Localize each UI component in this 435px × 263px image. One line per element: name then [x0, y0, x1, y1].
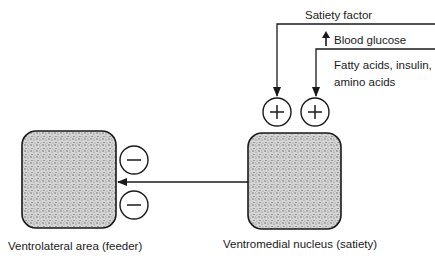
satiety-factor-label: Satiety factor [305, 8, 372, 22]
ventromedial-nucleus-label: Ventromedial nucleus (satiety) [223, 237, 377, 251]
fatty-acids-label-line2: amino acids [334, 75, 395, 89]
minus-sign-top-icon [120, 146, 148, 174]
ventrolateral-area-box [22, 131, 116, 228]
ventrolateral-area-label: Ventrolateral area (feeder) [8, 239, 142, 253]
minus-sign-bottom-icon [120, 191, 148, 219]
ventromedial-nucleus-box [248, 133, 341, 229]
blood-glucose-label: Blood glucose [334, 33, 406, 47]
fatty-acids-label-line1: Fatty acids, insulin, [334, 58, 432, 72]
plus-sign-right-icon [301, 98, 329, 126]
up-arrow-icon [322, 31, 330, 46]
plus-sign-left-icon [263, 98, 291, 126]
